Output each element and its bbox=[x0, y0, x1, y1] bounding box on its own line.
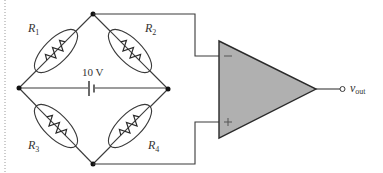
node-right bbox=[166, 87, 171, 92]
bridge-opamp-circuit: R1 R2 R3 R4 10 V vout bbox=[0, 0, 383, 173]
label-r4: R4 bbox=[147, 138, 159, 154]
label-source-voltage: 10 V bbox=[82, 66, 104, 78]
label-r1: R1 bbox=[27, 21, 39, 37]
opamp-triangle-icon bbox=[219, 41, 316, 138]
battery-icon bbox=[89, 81, 94, 96]
label-vout: vout bbox=[350, 81, 366, 96]
label-r2: R2 bbox=[144, 21, 156, 37]
node-left bbox=[17, 86, 22, 91]
label-r3: R3 bbox=[27, 138, 39, 154]
output-terminal-icon bbox=[340, 87, 345, 92]
